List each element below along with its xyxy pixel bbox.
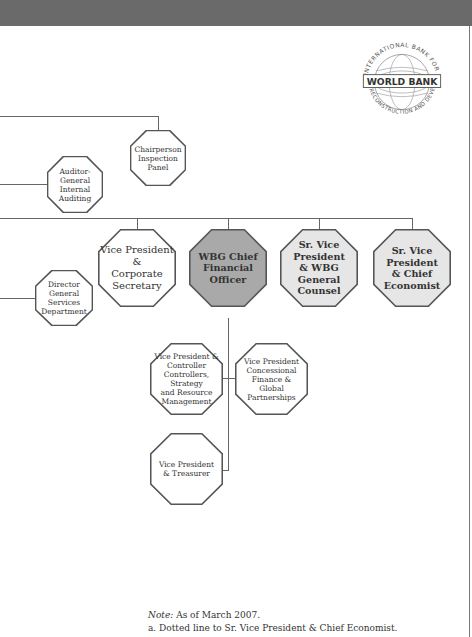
node-label: Vice President & Controller Controllers,… [150, 352, 223, 406]
node-label: Vice President & Corporate Secretary [98, 244, 176, 292]
node-vp-treasurer: Vice President & Treasurer [150, 433, 223, 505]
node-label: Auditor-General Internal Auditing [47, 167, 103, 203]
node-vp-controller: Vice President & Controller Controllers,… [150, 343, 223, 415]
node-label: WBG Chief Financial Officer [198, 251, 257, 286]
connector-main-h [0, 218, 413, 219]
node-director-general-services: Director General Services Department [35, 270, 93, 326]
node-label: Sr. Vice President & WBG General Counsel [280, 239, 358, 297]
note-label: Note: [148, 610, 173, 620]
node-chairperson-inspection-panel: Chairperson Inspection Panel [130, 130, 186, 186]
connector-auditor-h [0, 184, 48, 185]
connector-cfo-down [228, 318, 229, 470]
node-label: Vice President Concessional Finance & Gl… [244, 357, 299, 402]
connector-chairperson-v [158, 116, 159, 130]
note-date: Note: As of March 2007. [148, 610, 260, 620]
svg-text:INTERNATIONAL BANK FOR: INTERNATIONAL BANK FOR [362, 41, 441, 76]
node-label: Sr. Vice President & Chief Economist [373, 245, 451, 291]
connector-vp-pair-h [222, 378, 236, 379]
connector-director-h [0, 298, 36, 299]
header-bar [0, 0, 472, 26]
logo-name: WORLD BANK [367, 76, 439, 87]
node-vp-corporate-secretary: Vice President & Corporate Secretary [98, 229, 176, 307]
node-label: Vice President & Treasurer [159, 460, 214, 478]
logo-ring-top: INTERNATIONAL BANK FOR [362, 41, 441, 76]
connector-chairperson-h [0, 116, 159, 117]
page-edge [469, 26, 470, 637]
node-label: Director General Services Department [35, 280, 93, 316]
node-label: Chairperson Inspection Panel [134, 145, 181, 172]
node-svp-general-counsel: Sr. Vice President & WBG General Counsel [280, 229, 358, 307]
note-text: As of March 2007. [173, 610, 260, 620]
footnote-a: a. Dotted line to Sr. Vice President & C… [148, 623, 397, 633]
node-auditor-general: Auditor-General Internal Auditing [47, 156, 103, 213]
connector-treasurer-h [222, 470, 229, 471]
node-vp-concessional-finance: Vice President Concessional Finance & Gl… [235, 343, 308, 415]
node-svp-chief-economist: Sr. Vice President & Chief Economist [373, 229, 451, 307]
node-wbg-chief-financial-officer: WBG Chief Financial Officer [189, 229, 267, 307]
world-bank-logo: INTERNATIONAL BANK FOR RECONSTRUCTION AN… [356, 36, 448, 128]
